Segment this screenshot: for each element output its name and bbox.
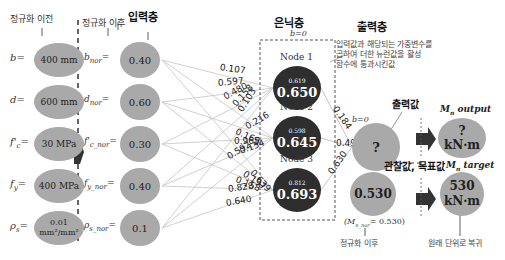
- target-node: 0.530: [350, 172, 396, 216]
- target-display-node: 530 kN·m: [440, 172, 484, 216]
- before-normalization-label: 정규화 이전: [10, 12, 53, 25]
- mn-subscript: n: [456, 165, 460, 172]
- raw-variable-label: b=: [10, 52, 25, 63]
- raw-variable-label: d=: [10, 94, 25, 105]
- raw-variable-label: ρs=: [10, 220, 28, 234]
- input-hidden-edge: [162, 88, 273, 228]
- after-normalization-label: 정규화 이후: [82, 16, 125, 29]
- raw-variable-label: f'c=: [10, 136, 29, 150]
- activation-note-line: 함수에 통과시킨값: [336, 60, 432, 70]
- input-node-value: 0.1: [132, 223, 148, 234]
- observed-target-label: 관찰값, 목표값: [384, 158, 445, 173]
- activation-note: 입력값과 해당되는 가중변수를 곱하여 더한 뉴런값을 활성 함수에 통과시킨값: [336, 40, 432, 70]
- restore-units-label: 원래 단위로 복귀: [428, 237, 482, 248]
- normalized-variable-label: f'c_nor=: [84, 136, 117, 149]
- raw-input-node: 30 MPa: [34, 127, 84, 161]
- output-display-value: ?: [458, 124, 465, 138]
- hidden-node: 0.8120.693: [273, 168, 321, 212]
- input-node: 0.30: [120, 126, 160, 162]
- target-display-value: 530: [449, 179, 474, 194]
- input-node-value: 0.60: [129, 97, 151, 108]
- input-node: 0.60: [120, 84, 160, 120]
- input-layer-title: 입력층: [128, 8, 158, 24]
- raw-input-node: 400 MPa: [34, 169, 84, 203]
- mn-subscript: n: [450, 109, 454, 116]
- input-node-value: 0.40: [129, 181, 151, 192]
- hidden-layer-title: 은닉층: [274, 14, 304, 30]
- raw-input-value: 400 MPa: [39, 181, 79, 191]
- input-node: 0.40: [120, 168, 160, 204]
- normalized-variable-label: ρs_nor=: [84, 220, 116, 233]
- input-node: 0.40: [120, 42, 160, 78]
- input-hidden-edge: [162, 190, 273, 228]
- hidden-node-title: Node 2: [280, 102, 313, 112]
- mn-target-word: target: [463, 160, 494, 170]
- output-value-label: 출력값: [392, 96, 419, 111]
- hidden-node-preactivation: 0.812: [288, 179, 305, 187]
- output-display-node: ? kN·m: [438, 118, 486, 158]
- output-display-unit: kN·m: [444, 138, 480, 152]
- raw-input-unit: mm²/mm²: [39, 228, 78, 238]
- activation-note-line: 입력값과 해당되는 가중변수를: [336, 40, 432, 50]
- mn-nor-value: = 0.530): [370, 217, 405, 226]
- output-bias-label: b=0: [352, 115, 369, 124]
- mn-nor-note: (Mn_nor= 0.530): [344, 217, 405, 228]
- mn-symbol: M: [446, 160, 456, 170]
- raw-input-value: 400 mm: [40, 55, 77, 65]
- hidden-node-preactivation: 0.619: [288, 77, 305, 85]
- ann-diagram: 정규화 이전 정규화 이후 입력층 은닉층 b=0 출력층 입력값과 해당되는 …: [0, 0, 505, 260]
- raw-input-node: 0.01mm²/mm²: [34, 211, 84, 245]
- input-node: 0.1: [120, 210, 160, 246]
- after-normalization-bottom-label: 정규화 이후: [340, 237, 378, 248]
- activation-note-line: 곱하여 더한 뉴런값을 활성: [336, 50, 432, 60]
- raw-input-value: 600 mm: [40, 97, 77, 107]
- hidden-node-preactivation: 0.598: [288, 127, 305, 135]
- mn-output-label: Mn output: [440, 104, 491, 116]
- mn-symbol: M: [440, 104, 450, 114]
- raw-input-value: 0.01: [50, 218, 68, 228]
- hidden-node-value: 0.693: [277, 187, 318, 202]
- hidden-node-value: 0.645: [277, 135, 318, 150]
- hidden-node-title: Node 1: [280, 52, 313, 62]
- normalized-variable-label: bnor=: [84, 52, 109, 65]
- input-node-value: 0.40: [129, 55, 151, 66]
- mn-target-label: Mn target: [446, 160, 494, 172]
- mn-nor-subscript: n_nor: [355, 222, 369, 228]
- hidden-node-title: Node 3: [280, 154, 313, 164]
- raw-input-value: 30 MPa: [42, 139, 77, 149]
- output-layer-title: 출력층: [357, 18, 387, 34]
- mn-output-word: output: [457, 104, 491, 114]
- normalized-variable-label: fy_nor=: [84, 178, 114, 191]
- raw-input-node: 600 mm: [34, 85, 84, 119]
- hidden-bias-label: b=0: [290, 29, 307, 38]
- right-arrow-icon: [416, 187, 436, 211]
- raw-variable-label: fy=: [10, 178, 26, 192]
- normalized-variable-label: dnor=: [84, 94, 109, 107]
- hidden-node-value: 0.650: [277, 85, 318, 100]
- target-display-unit: kN·m: [444, 194, 480, 209]
- mn-nor-open: (M: [344, 217, 355, 226]
- input-node-value: 0.30: [129, 139, 151, 150]
- right-arrow-icon: [416, 127, 436, 151]
- raw-input-node: 400 mm: [34, 43, 84, 77]
